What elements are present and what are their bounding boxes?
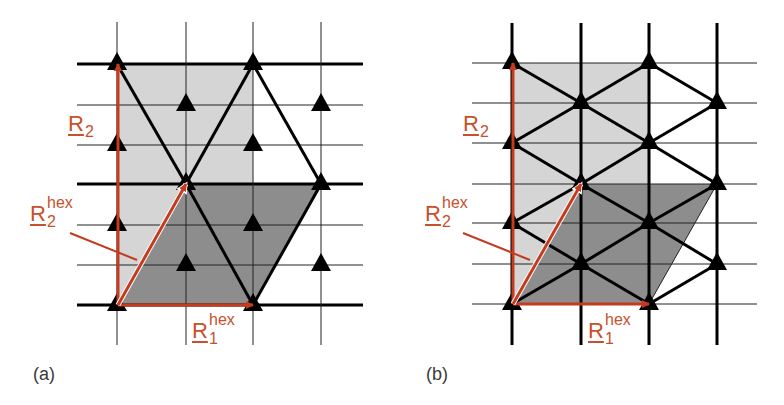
label-r2-hex: R2hex [425,203,451,225]
panel-letter-b: (b) [426,364,448,385]
panel-b-lattice-drawing [0,0,784,405]
label-r1-hex: R1hex [588,320,614,342]
label-r2: R2 [463,113,489,135]
lattice-figure: R2 R2hex R1hex (a) R2 R2hex R1hex (b) [0,0,784,405]
bond-line [649,103,717,143]
panel-b: R2 R2hex R1hex (b) [0,0,784,405]
bond-line [649,143,717,184]
atom-triangle-icon [639,51,659,69]
bond-line [649,63,717,103]
